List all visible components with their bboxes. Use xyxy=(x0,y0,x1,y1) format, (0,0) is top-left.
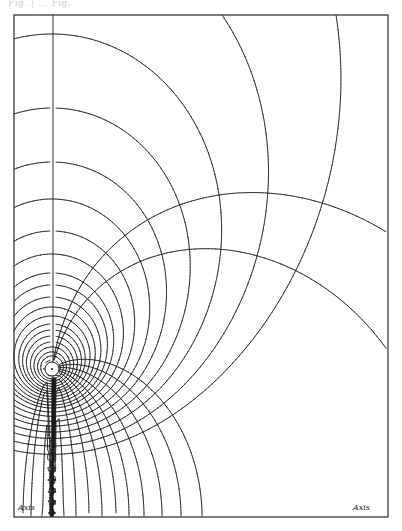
axis-label-right: Axis xyxy=(353,503,370,512)
equipotential-line xyxy=(52,370,144,517)
line-of-force xyxy=(14,15,341,454)
axis-label-left: Axis xyxy=(18,503,35,512)
figure-frame xyxy=(14,15,388,517)
equipotential-line xyxy=(51,193,386,517)
circular-current-field-diagram xyxy=(0,0,402,531)
equipotential-line xyxy=(51,249,386,516)
equipotential-line xyxy=(52,379,89,516)
equipotential-lines xyxy=(23,193,386,517)
figure-header-text: Fig. | ... Fig. xyxy=(8,0,71,8)
equipotential-line xyxy=(52,368,162,516)
lines-of-force xyxy=(14,15,341,454)
line-of-force xyxy=(14,108,190,432)
line-of-force xyxy=(14,254,123,412)
pole-center-dot xyxy=(51,368,53,370)
